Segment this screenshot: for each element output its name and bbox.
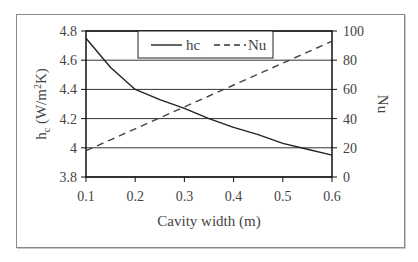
legend: hc Nu — [138, 31, 273, 58]
y2-tick-label: 100 — [343, 24, 364, 39]
legend-label-hc: hc — [186, 37, 201, 53]
x-tick-label: 0.6 — [323, 189, 341, 204]
x-axis-label: Cavity width (m) — [157, 213, 260, 230]
y-axis-right-ticks: 020406080100 — [332, 24, 364, 185]
y-tick-label: 3.8 — [60, 170, 78, 185]
y-axis-right-label: Nu — [375, 95, 391, 114]
line-chart: 3.844.24.44.64.8 020406080100 0.10.20.30… — [0, 0, 418, 262]
y2-tick-label: 0 — [343, 170, 350, 185]
y-tick-label: 4.2 — [60, 112, 78, 127]
x-tick-label: 0.1 — [77, 189, 95, 204]
y-tick-label: 4 — [70, 141, 77, 156]
y2-tick-label: 20 — [343, 141, 357, 156]
y-axis-left-ticks: 3.844.24.44.64.8 — [60, 24, 87, 185]
x-axis-ticks: 0.10.20.30.40.50.6 — [77, 177, 341, 204]
y-axis-left-label: hc (W/m2K) — [32, 68, 52, 140]
y2-tick-label: 40 — [343, 112, 357, 127]
y2-tick-label: 60 — [343, 82, 357, 97]
y-tick-label: 4.4 — [60, 82, 78, 97]
y-tick-label: 4.8 — [60, 24, 78, 39]
x-tick-label: 0.4 — [225, 189, 243, 204]
x-tick-label: 0.3 — [176, 189, 194, 204]
x-tick-label: 0.5 — [274, 189, 292, 204]
x-tick-label: 0.2 — [126, 189, 144, 204]
y-tick-label: 4.6 — [60, 53, 78, 68]
y2-tick-label: 80 — [343, 53, 357, 68]
legend-label-nu: Nu — [248, 37, 267, 53]
